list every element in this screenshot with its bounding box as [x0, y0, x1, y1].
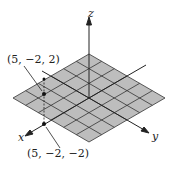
x-arrow-icon [25, 130, 33, 136]
z-axis-label: z [88, 8, 94, 19]
x-axis-label: x [18, 132, 24, 143]
y-axis-label: y [152, 131, 158, 142]
point-upper [42, 92, 46, 96]
point-label-lower: (5, −2, −2) [27, 148, 89, 159]
point-lower [42, 122, 46, 126]
y-arrow-icon [141, 127, 149, 133]
point-label-upper: (5, −2, 2) [7, 54, 60, 65]
